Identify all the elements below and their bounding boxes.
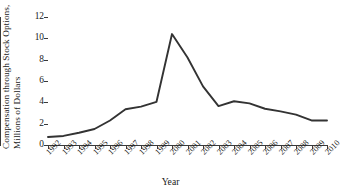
x-axis-title: Year [0,176,341,187]
line-series-compensation [48,34,327,137]
chart-figure: Compensation through Stock Options, Mill… [0,0,341,191]
data-series-layer [0,0,341,191]
